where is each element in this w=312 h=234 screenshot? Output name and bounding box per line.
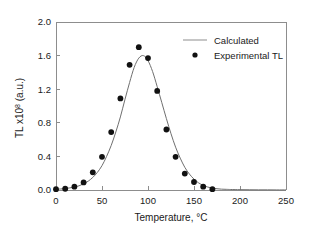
datapoint <box>182 171 188 177</box>
x-tick-label: 250 <box>278 195 294 206</box>
y-tick-label: 2.0 <box>38 16 51 27</box>
chart-legend: Calculated Experimental TL <box>183 35 283 61</box>
datapoint <box>62 186 68 192</box>
legend-dot-swatch <box>192 52 197 57</box>
datapoint <box>173 154 179 160</box>
datapoint <box>200 184 206 190</box>
datapoint <box>164 127 170 133</box>
y-axis-title-main: TL x10 <box>14 107 25 138</box>
datapoint <box>72 184 78 190</box>
y-tick-label: 0.0 <box>38 184 51 195</box>
x-tick-label: 200 <box>232 195 248 206</box>
chart-svg: 0.00.40.81.21.62.0 050100150200250 TL x1… <box>0 0 312 234</box>
datapoint <box>127 62 133 68</box>
datapoint <box>81 180 87 186</box>
x-tick-label: 150 <box>186 195 202 206</box>
y-axis-ticks <box>56 22 60 190</box>
datapoint <box>99 154 105 160</box>
y-tick-label: 1.6 <box>38 50 51 61</box>
y-tick-label: 0.4 <box>38 151 51 162</box>
y-axis-title: TL x108 (a.u.) <box>14 78 26 138</box>
y-tick-label: 1.2 <box>38 84 51 95</box>
datapoint <box>108 129 114 135</box>
axes-frame <box>56 22 286 190</box>
x-tick-label: 100 <box>140 195 156 206</box>
chart-figure: 0.00.40.81.21.62.0 050100150200250 TL x1… <box>0 0 312 234</box>
datapoint <box>53 186 59 192</box>
x-tick-label: 0 <box>53 195 58 206</box>
datapoint <box>154 88 160 94</box>
x-tick-label: 50 <box>97 195 108 206</box>
y-tick-label: 0.8 <box>38 117 51 128</box>
x-axis-tick-labels: 050100150200250 <box>53 195 294 206</box>
datapoint <box>191 179 197 185</box>
legend-label-experimental: Experimental TL <box>214 50 283 61</box>
x-axis-title: Temperature, °C <box>135 212 208 223</box>
datapoint <box>210 186 216 192</box>
datapoint <box>145 55 151 61</box>
calculated-curve <box>56 56 286 190</box>
datapoint <box>136 44 142 50</box>
datapoint <box>90 169 96 175</box>
datapoint <box>118 96 124 102</box>
y-axis-title-units: (a.u.) <box>14 78 25 104</box>
legend-label-calculated: Calculated <box>214 35 259 46</box>
y-axis-tick-labels: 0.00.40.81.21.62.0 <box>38 16 51 195</box>
svg-text:TL x108 (a.u.): TL x108 (a.u.) <box>14 78 26 138</box>
